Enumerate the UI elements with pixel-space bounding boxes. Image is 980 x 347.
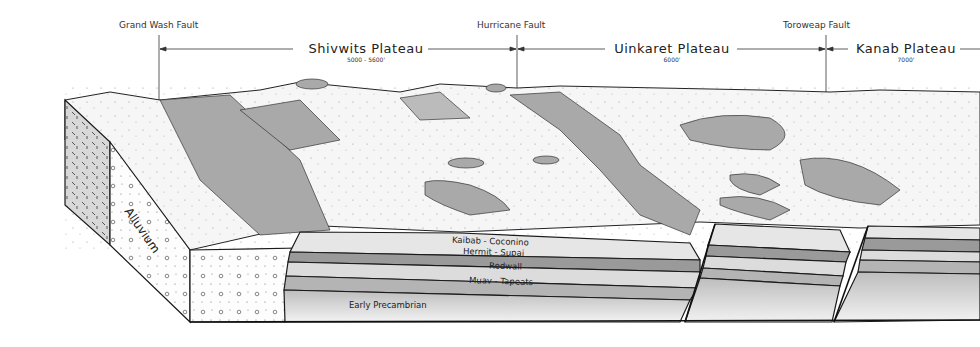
plateau-elevation: 7000' (852, 56, 960, 63)
layer-label-early-precambrian: Early Precambrian (349, 300, 427, 310)
plateau-name: Shivwits Plateau (309, 41, 424, 56)
plateau-elevation: 6000' (612, 56, 732, 63)
plateau-label-uinkaret: Uinkaret Plateau 6000' (612, 41, 732, 63)
layer-label-hermit-supai: Hermit - Supai (463, 246, 524, 258)
plateau-label-shivwits: Shivwits Plateau 5000 - 5600' (306, 41, 426, 63)
plateau-label-kanab: Kanab Plateau 7000' (852, 41, 960, 63)
block-diagram (0, 0, 980, 347)
fault-label-hurricane: Hurricane Fault (477, 20, 545, 30)
fault-label-grand-wash: Grand Wash Fault (119, 20, 198, 30)
fault-label-toroweap: Toroweap Fault (783, 20, 850, 30)
plateau-elevation: 5000 - 5600' (306, 56, 426, 63)
plateau-name: Kanab Plateau (856, 41, 956, 56)
plateau-name: Uinkaret Plateau (614, 41, 730, 56)
layer-label-redwall: Redwall (489, 260, 522, 271)
